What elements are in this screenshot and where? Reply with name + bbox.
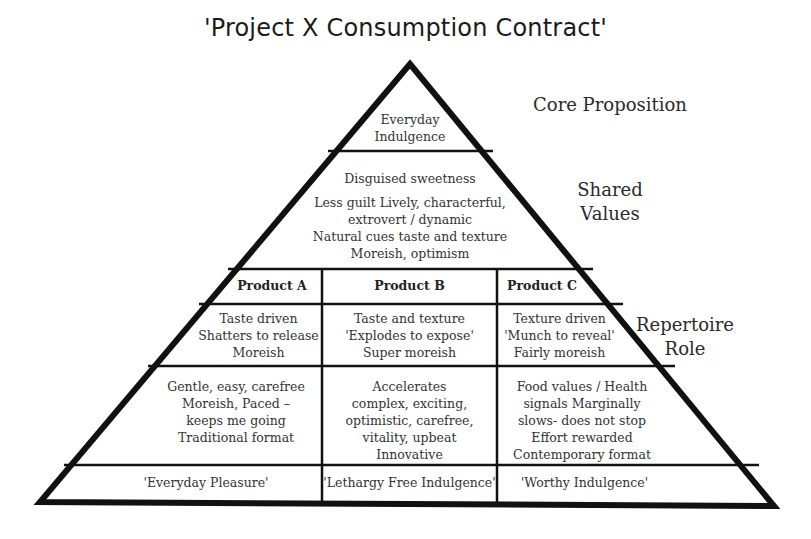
product-b-header: Product B [322, 278, 497, 293]
shared-values-body: Less guilt Lively, characterful, extrove… [240, 194, 580, 262]
shared-values-label: Shared Values [560, 178, 660, 226]
product-c-tagline: 'Worthy Indulgence' [497, 474, 672, 491]
product-c-header: Product C [497, 278, 587, 293]
product-a-values: Gentle, easy, carefree Moreish, Paced – … [150, 378, 322, 446]
product-b-values: Accelerates complex, exciting, optimisti… [322, 378, 497, 463]
product-b-role: Taste and texture 'Explodes to expose' S… [322, 310, 497, 361]
product-a-tagline: 'Everyday Pleasure' [90, 474, 322, 491]
core-proposition-label: Core Proposition [510, 93, 710, 117]
product-a-role: Taste driven Shatters to release Moreish [195, 310, 322, 361]
product-a-header: Product A [222, 278, 322, 293]
product-c-values: Food values / Health signals Marginally … [497, 378, 667, 463]
shared-values-heading: Disguised sweetness [260, 170, 560, 187]
product-c-role: Texture driven 'Munch to reveal' Fairly … [497, 310, 622, 361]
core-proposition-text: Everyday Indulgence [340, 111, 480, 145]
repertoire-role-label: Repertoire Role [615, 313, 755, 361]
product-b-tagline: 'Lethargy Free Indulgence' [322, 474, 497, 491]
